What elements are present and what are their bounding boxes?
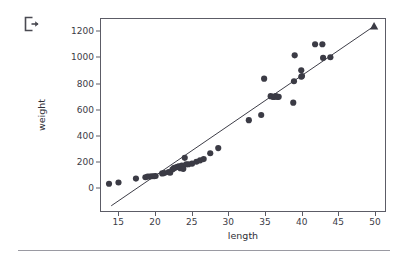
y-tick-label: 800 [77,79,94,89]
plot-svg [101,19,385,211]
y-tick-mark [96,83,100,84]
plot-canvas [101,19,385,211]
x-axis-label: length [100,230,386,241]
x-tick-label: 20 [149,217,160,227]
x-tick-mark [375,212,376,216]
scatter-plot-figure: 020040060080010001200 1520253035404550 l… [0,0,408,248]
y-tick-label: 1000 [71,52,94,62]
x-tick-mark [155,212,156,216]
y-tick-mark [96,188,100,189]
y-tick-label: 0 [88,183,94,193]
y-tick-label: 400 [77,131,94,141]
x-tick-mark [228,212,229,216]
y-tick-mark [96,109,100,110]
x-tick-label: 30 [223,217,234,227]
x-tick-mark [118,212,119,216]
x-tick-mark [338,212,339,216]
y-tick-mark [96,162,100,163]
y-tick-mark [96,57,100,58]
y-tick-label: 1200 [71,26,94,36]
bottom-divider [18,250,390,251]
x-tick-mark [265,212,266,216]
x-tick-label: 35 [259,217,270,227]
plot-area [100,18,386,212]
x-tick-label: 45 [333,217,344,227]
y-tick-label: 200 [77,157,94,167]
x-tick-mark [302,212,303,216]
y-axis-tick-labels: 020040060080010001200 [62,18,94,212]
x-tick-label: 15 [113,217,124,227]
x-tick-label: 40 [296,217,307,227]
x-tick-label: 50 [369,217,380,227]
x-tick-label: 25 [186,217,197,227]
x-axis-tick-labels: 1520253035404550 [100,217,386,229]
y-axis-label: weight [36,99,47,131]
y-tick-label: 600 [77,105,94,115]
y-tick-mark [96,135,100,136]
x-tick-mark [192,212,193,216]
y-tick-mark [96,31,100,32]
